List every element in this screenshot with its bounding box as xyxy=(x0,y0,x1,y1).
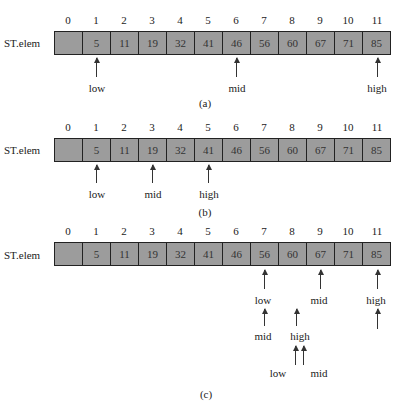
index-label: 0 xyxy=(54,14,82,26)
up-arrow-icon xyxy=(377,58,378,77)
pointer-low: low xyxy=(77,188,117,200)
array-a: 5 11 19 32 41 46 56 60 67 71 85 xyxy=(54,31,391,55)
pointer-high: high xyxy=(357,82,397,94)
array-cell: 19 xyxy=(139,139,167,161)
index-label: 10 xyxy=(334,121,362,133)
array-cell: 32 xyxy=(167,243,195,265)
index-label: 7 xyxy=(250,225,278,237)
index-label: 3 xyxy=(138,14,166,26)
array-cell: 67 xyxy=(307,32,335,54)
index-label: 9 xyxy=(306,225,334,237)
array-cell xyxy=(55,243,83,265)
up-arrow-icon xyxy=(208,165,209,183)
array-cell: 46 xyxy=(223,32,251,54)
index-label: 3 xyxy=(138,225,166,237)
up-arrow-icon xyxy=(152,165,153,183)
index-label: 5 xyxy=(194,121,222,133)
array-cell: 60 xyxy=(279,32,307,54)
pointer-high: high xyxy=(189,188,229,200)
index-label: 3 xyxy=(138,121,166,133)
array-cell: 11 xyxy=(111,139,139,161)
array-cell: 5 xyxy=(83,243,111,265)
array-cell: 11 xyxy=(111,32,139,54)
index-label: 7 xyxy=(250,14,278,26)
index-label: 2 xyxy=(110,14,138,26)
array-cell: 85 xyxy=(363,139,390,161)
array-cell: 5 xyxy=(83,139,111,161)
up-arrow-icon xyxy=(264,270,265,289)
index-label: 4 xyxy=(166,225,194,237)
caption-c: (c) xyxy=(186,388,226,400)
index-label: 6 xyxy=(222,14,250,26)
pointer-high: high xyxy=(356,294,396,306)
index-label: 2 xyxy=(110,121,138,133)
up-arrow-icon xyxy=(295,346,296,365)
array-cell: 56 xyxy=(251,32,279,54)
index-label: 10 xyxy=(334,225,362,237)
array-cell: 41 xyxy=(195,243,223,265)
pointer-high: high xyxy=(280,330,320,342)
array-cell: 71 xyxy=(335,139,363,161)
pointer-low: low xyxy=(243,294,283,306)
array-cell: 71 xyxy=(335,32,363,54)
array-cell xyxy=(55,32,83,54)
caption-b: (b) xyxy=(185,206,225,218)
pointer-low: low xyxy=(77,82,117,94)
array-cell: 32 xyxy=(167,32,195,54)
array-cell: 85 xyxy=(363,32,390,54)
index-label: 5 xyxy=(194,225,222,237)
up-arrow-icon xyxy=(96,165,97,183)
index-label: 8 xyxy=(278,121,306,133)
index-label: 9 xyxy=(306,14,334,26)
index-label: 2 xyxy=(110,225,138,237)
pointer-mid: mid xyxy=(299,367,339,379)
index-label: 7 xyxy=(250,121,278,133)
array-cell: 46 xyxy=(223,139,251,161)
up-arrow-icon xyxy=(96,58,97,77)
up-arrow-icon xyxy=(377,309,378,329)
caption-a: (a) xyxy=(185,97,225,109)
array-cell: 85 xyxy=(363,243,390,265)
up-arrow-icon xyxy=(320,270,321,289)
array-name-label: ST.elem xyxy=(4,143,40,157)
index-label: 1 xyxy=(82,121,110,133)
array-cell: 11 xyxy=(111,243,139,265)
array-cell: 41 xyxy=(195,32,223,54)
index-label: 6 xyxy=(222,225,250,237)
index-label: 0 xyxy=(54,121,82,133)
up-arrow-icon xyxy=(377,270,378,289)
index-label: 1 xyxy=(82,225,110,237)
array-cell: 41 xyxy=(195,139,223,161)
index-label: 9 xyxy=(306,121,334,133)
array-b: 5 11 19 32 41 46 56 60 67 71 85 xyxy=(54,138,391,162)
index-label: 8 xyxy=(278,14,306,26)
up-arrow-icon xyxy=(303,346,304,365)
index-label: 11 xyxy=(363,225,391,237)
array-cell: 46 xyxy=(223,243,251,265)
up-arrow-icon xyxy=(236,58,237,77)
pointer-low: low xyxy=(258,367,298,379)
array-cell xyxy=(55,139,83,161)
array-c: 5 11 19 32 41 46 56 60 67 71 85 xyxy=(54,242,391,266)
array-cell: 60 xyxy=(279,243,307,265)
index-label: 6 xyxy=(222,121,250,133)
pointer-mid: mid xyxy=(217,82,257,94)
index-label: 4 xyxy=(166,121,194,133)
array-cell: 56 xyxy=(251,139,279,161)
index-label: 0 xyxy=(54,225,82,237)
array-cell: 71 xyxy=(335,243,363,265)
array-cell: 67 xyxy=(307,139,335,161)
index-label: 1 xyxy=(82,14,110,26)
array-cell: 32 xyxy=(167,139,195,161)
pointer-mid: mid xyxy=(243,330,283,342)
index-label: 10 xyxy=(334,14,362,26)
index-label: 5 xyxy=(194,14,222,26)
index-label: 4 xyxy=(166,14,194,26)
pointer-mid: mid xyxy=(299,294,339,306)
array-cell: 19 xyxy=(139,243,167,265)
array-cell: 56 xyxy=(251,243,279,265)
array-cell: 60 xyxy=(279,139,307,161)
index-label: 8 xyxy=(278,225,306,237)
index-label: 11 xyxy=(363,121,391,133)
pointer-mid: mid xyxy=(133,188,173,200)
